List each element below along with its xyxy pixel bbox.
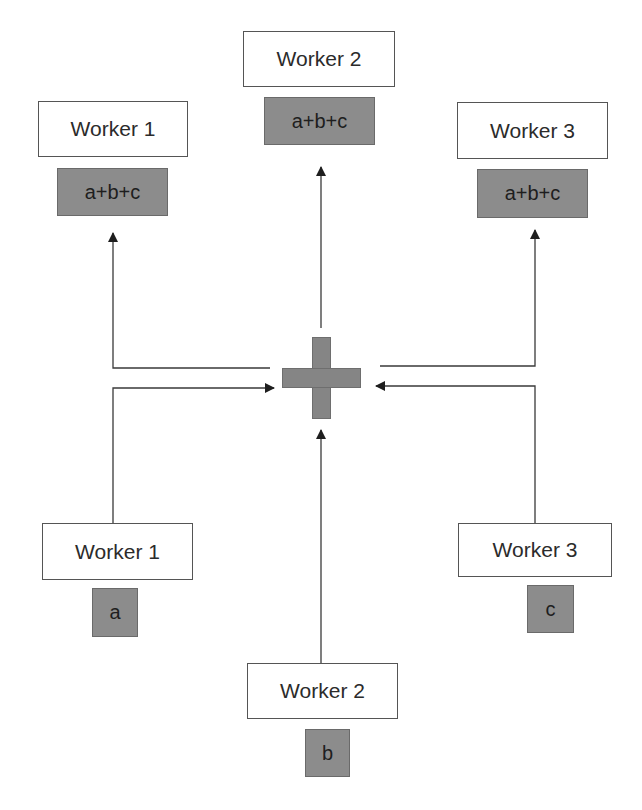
worker-label: Worker 2: [277, 47, 362, 71]
input-worker-1-box: Worker 1: [42, 523, 193, 580]
output-worker-1-box: Worker 1: [38, 101, 188, 157]
input-worker-3-box: Worker 3: [458, 523, 612, 577]
worker-label: Worker 1: [71, 117, 156, 141]
input-worker-2-value: b: [305, 729, 350, 777]
output-worker-1-value: a+b+c: [57, 168, 168, 216]
worker-label: Worker 3: [490, 119, 575, 143]
value-label: a: [109, 601, 120, 624]
output-worker-2-value: a+b+c: [264, 97, 375, 145]
value-label: a+b+c: [85, 181, 141, 204]
worker-label: Worker 3: [493, 538, 578, 562]
output-worker-2-box: Worker 2: [243, 31, 395, 87]
input-worker-3-value: c: [527, 585, 574, 633]
arrow-to-output-worker-3: [380, 230, 535, 366]
value-label: b: [322, 742, 333, 765]
arrow-from-input-worker-3: [376, 386, 535, 523]
worker-label: Worker 1: [75, 540, 160, 564]
arrow-from-input-worker-1: [113, 388, 274, 523]
input-worker-1-value: a: [92, 588, 138, 637]
output-worker-3-box: Worker 3: [457, 102, 608, 159]
value-label: a+b+c: [505, 182, 561, 205]
worker-label: Worker 2: [280, 679, 365, 703]
value-label: c: [546, 598, 556, 621]
value-label: a+b+c: [292, 110, 348, 133]
input-worker-2-box: Worker 2: [247, 663, 398, 719]
arrow-to-output-worker-1: [113, 233, 270, 368]
output-worker-3-value: a+b+c: [477, 169, 588, 218]
